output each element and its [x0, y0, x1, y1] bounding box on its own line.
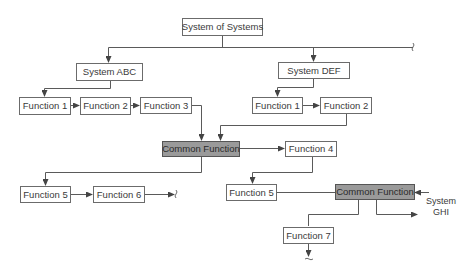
node-def-function-2: Function 2: [320, 97, 372, 114]
external-system-ghi: System GHI: [423, 196, 459, 218]
node-abc-function-3: Function 3: [140, 97, 192, 114]
node-system-of-systems: System of Systems: [182, 18, 263, 36]
node-function-6: Function 6: [93, 186, 145, 203]
system-ghi-line-1: System: [423, 196, 459, 207]
node-left-function-5: Function 5: [20, 186, 71, 203]
node-system-abc: System ABC: [76, 63, 143, 81]
connector-lines: [0, 0, 470, 273]
node-abc-function-2: Function 2: [80, 97, 131, 115]
node-system-def: System DEF: [278, 62, 350, 79]
node-def-function-1: Function 1: [252, 97, 303, 114]
system-ghi-line-2: GHI: [423, 207, 459, 218]
node-common-function-1: Common Function: [162, 141, 240, 157]
node-function-4: Function 4: [285, 141, 337, 157]
node-function-7: Function 7: [283, 227, 334, 244]
node-common-function-2: Common Function: [335, 184, 415, 200]
system-of-systems-diagram: System of Systems System ABC System DEF …: [0, 0, 470, 273]
node-abc-function-1: Function 1: [19, 97, 71, 115]
node-right-function-5: Function 5: [226, 184, 277, 201]
